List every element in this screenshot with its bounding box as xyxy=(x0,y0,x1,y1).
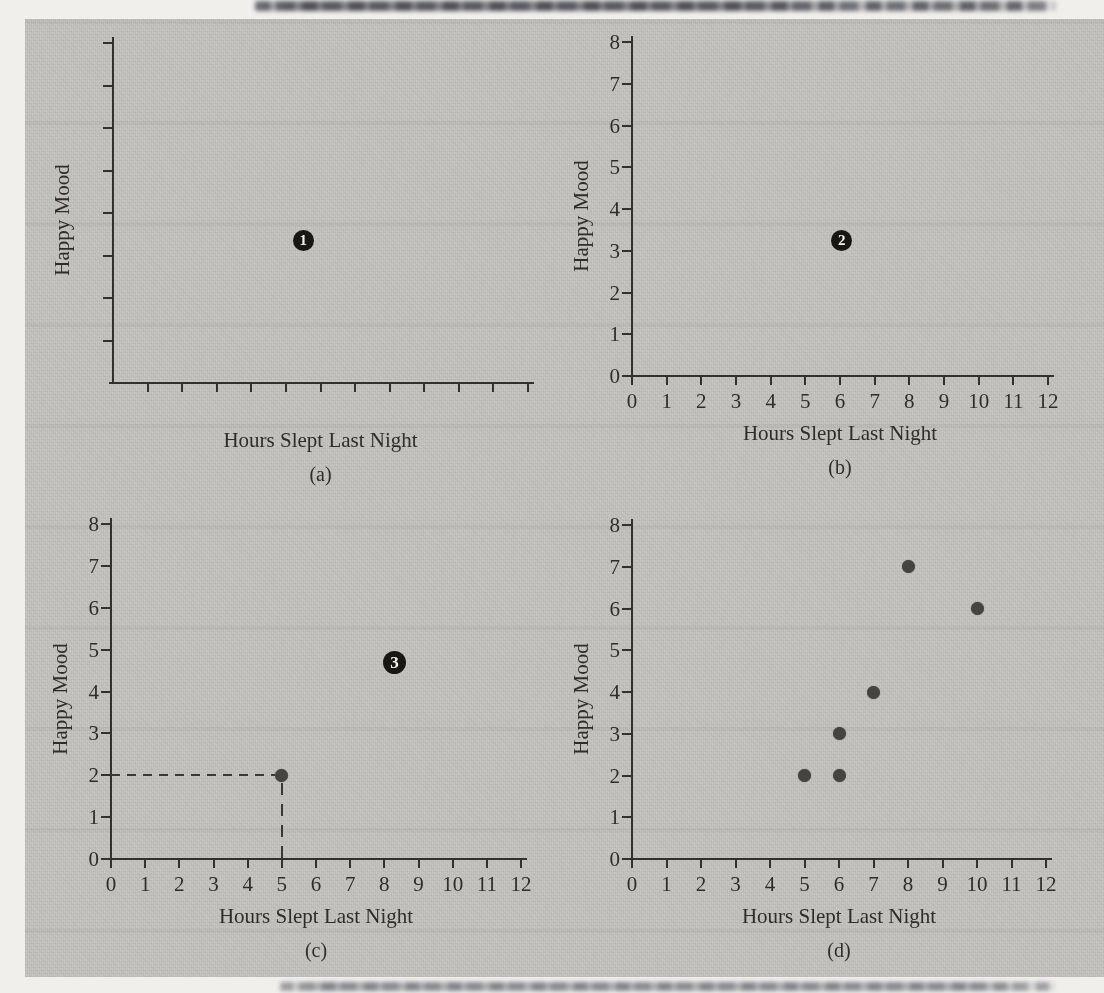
scanned-textbook-page: Happy Mood Hours Slept Last Night (a) 1 … xyxy=(0,0,1104,993)
blurred-text-bottom xyxy=(280,982,1055,991)
figure-background xyxy=(25,19,1104,977)
figure: Happy Mood Hours Slept Last Night (a) 1 … xyxy=(0,0,1104,993)
